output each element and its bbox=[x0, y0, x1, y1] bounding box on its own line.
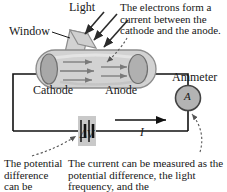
electrons-annotation: The electrons form a current between the… bbox=[120, 2, 226, 37]
current-label: I bbox=[140, 127, 144, 139]
anode-electrode bbox=[129, 55, 148, 84]
window-leader-line bbox=[52, 32, 70, 38]
cathode-label: Cathode bbox=[33, 85, 73, 97]
window-label: Window bbox=[9, 26, 50, 38]
current-annotation: The current can be measured as the poten… bbox=[68, 158, 227, 192]
potential-difference-label: ΔV bbox=[80, 129, 94, 141]
potential-leader-line bbox=[32, 136, 76, 156]
light-label: Light bbox=[69, 2, 95, 14]
cathode-electrode bbox=[41, 54, 58, 84]
ammeter-label: Ammeter bbox=[172, 72, 217, 84]
current-leader-line bbox=[192, 114, 202, 152]
ammeter-symbol-label: A bbox=[184, 91, 191, 103]
photoelectric-effect-figure: A Light Window Cathode Anode Ammeter ΔV … bbox=[0, 0, 227, 192]
potential-annotation: The potential difference can be changed … bbox=[4, 158, 64, 192]
anode-label: Anode bbox=[105, 85, 137, 97]
